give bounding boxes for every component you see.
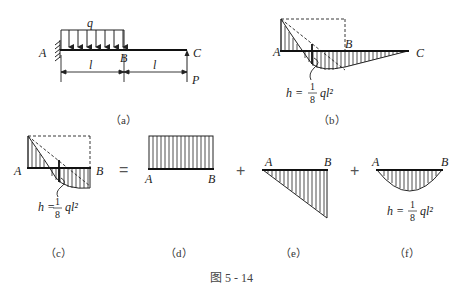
- b-frac-den: 8: [310, 94, 315, 105]
- panel-a-beam-diagram: q A B C P l l （a）: [38, 16, 202, 126]
- c-label-b: B: [96, 164, 104, 178]
- b-frac-num: 1: [310, 81, 315, 92]
- b-frac-tail: ql²: [320, 86, 333, 100]
- support-label-a: A: [38, 46, 47, 60]
- caption-b: （b）: [318, 114, 346, 126]
- caption-f: （f）: [394, 247, 420, 259]
- panel-f-parabola-diagram: A B h = 1 8 ql² （f）: [371, 155, 449, 259]
- c-label-a: A: [13, 164, 22, 178]
- b-label-a: A: [272, 45, 281, 59]
- force-label-p: P: [191, 73, 200, 87]
- distributed-load-icon: [61, 30, 124, 49]
- bending-moment-figure: q A B C P l l （a）: [0, 0, 460, 293]
- load-label-q: q: [87, 16, 93, 30]
- c-frac-tail: ql²: [65, 200, 78, 214]
- point-label-b: B: [120, 51, 128, 65]
- d-label-a: A: [144, 172, 153, 186]
- panel-b-moment-diagram: A B C h = 1 8 ql² （b）: [272, 19, 425, 126]
- plus-sign-2: +: [350, 162, 359, 179]
- caption-d: （d）: [165, 247, 193, 259]
- plus-sign-1: +: [236, 162, 245, 179]
- f-frac-den: 8: [410, 212, 415, 223]
- b-label-b: B: [345, 37, 353, 51]
- span-label-1: l: [89, 58, 93, 72]
- caption-c: （c）: [45, 247, 72, 259]
- e-label-a: A: [264, 155, 273, 169]
- panel-c-moment-diagram: A B h = 1 8 ql² （c）: [13, 136, 104, 259]
- c-frac-den: 8: [55, 209, 60, 220]
- f-frac-num: 1: [410, 199, 415, 210]
- f-h-label: h =: [387, 204, 404, 218]
- panel-d-rectangle-diagram: A B （d）: [144, 136, 216, 259]
- fixed-support-icon: [55, 40, 60, 61]
- equals-sign: =: [119, 161, 128, 178]
- d-label-b: B: [208, 172, 216, 186]
- panel-e-triangle-diagram: A B （e）: [262, 155, 332, 259]
- c-frac-num: 1: [55, 196, 60, 207]
- b-h-label: h =: [286, 86, 303, 100]
- f-frac-tail: ql²: [420, 204, 433, 218]
- c-h-label: h =: [38, 200, 55, 214]
- caption-e: （e）: [280, 247, 307, 259]
- point-label-c: C: [193, 46, 202, 60]
- span-label-2: l: [153, 58, 157, 72]
- figure-caption: 图 5 - 14: [210, 271, 253, 285]
- b-label-c: C: [416, 46, 425, 60]
- f-label-b: B: [441, 155, 449, 169]
- f-label-a: A: [371, 155, 380, 169]
- caption-a: （a）: [110, 114, 137, 126]
- e-label-b: B: [324, 155, 332, 169]
